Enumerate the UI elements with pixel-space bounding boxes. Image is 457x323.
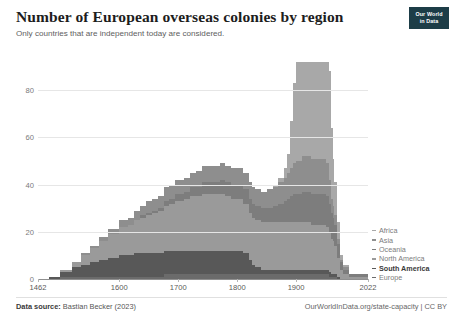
legend-connector-line xyxy=(372,268,376,269)
legend-item-label: North America xyxy=(379,254,425,263)
legend-item-label: Africa xyxy=(379,226,397,235)
y-axis: 020406080 xyxy=(14,62,34,279)
y-axis-label-60: 60 xyxy=(26,133,34,142)
x-axis-tick-1700 xyxy=(178,279,179,282)
gridline-y-0 xyxy=(38,279,368,280)
y-axis-label-20: 20 xyxy=(26,227,34,236)
logo-line-2: in Data xyxy=(420,18,439,25)
legend-item-label: Europe xyxy=(379,273,402,282)
legend-item-north-america[interactable]: North America xyxy=(372,254,454,263)
gridline-y-60 xyxy=(38,137,368,138)
legend-connector-line xyxy=(372,239,376,240)
legend-item-south-america[interactable]: South America xyxy=(372,264,454,273)
data-source-label: Data source: xyxy=(16,302,61,311)
legend-connector-line xyxy=(372,249,376,250)
credit-link[interactable]: OurWorldInData.org/state-capacity | CC B… xyxy=(305,302,447,311)
x-axis-label-1900: 1900 xyxy=(288,283,305,292)
x-axis-tick-1900 xyxy=(296,279,297,282)
gridline-y-80 xyxy=(38,90,368,91)
legend-item-asia[interactable]: Asia xyxy=(372,235,454,244)
y-axis-label-80: 80 xyxy=(26,86,34,95)
owid-logo[interactable]: Our World in Data xyxy=(409,7,449,29)
x-axis-tick-1800 xyxy=(237,279,238,282)
x-axis-tick-1600 xyxy=(119,279,120,282)
legend-connector-line xyxy=(372,277,376,278)
page-subtitle: Only countries that are independent toda… xyxy=(16,29,224,38)
gridline-y-40 xyxy=(38,185,368,186)
legend-item-oceania[interactable]: Oceania xyxy=(372,245,454,254)
legend-item-label: Oceania xyxy=(379,245,406,254)
page-title: Number of European overseas colonies by … xyxy=(16,8,344,26)
plot-area xyxy=(38,62,368,279)
legend-item-label: Asia xyxy=(379,236,393,245)
chart-legend: AfricaAsiaOceaniaNorth AmericaSouth Amer… xyxy=(372,226,454,282)
x-axis-label-2022: 2022 xyxy=(360,283,377,292)
legend-connector-line xyxy=(372,230,376,231)
x-axis-label-1462: 1462 xyxy=(30,283,47,292)
y-axis-label-40: 40 xyxy=(26,180,34,189)
footer-divider xyxy=(16,297,447,298)
legend-connector-line xyxy=(372,258,376,259)
data-source-value: Bastian Becker (2023) xyxy=(63,302,136,311)
legend-item-label: South America xyxy=(379,264,429,273)
x-axis-label-1700: 1700 xyxy=(170,283,187,292)
x-axis-tick-2022 xyxy=(368,279,369,282)
x-axis-label-1600: 1600 xyxy=(111,283,128,292)
legend-item-europe[interactable]: Europe xyxy=(372,273,454,282)
x-axis-tick-1462 xyxy=(38,279,39,282)
chart-page: Number of European overseas colonies by … xyxy=(0,0,457,323)
data-source: Data source: Bastian Becker (2023) xyxy=(16,302,136,311)
stacked-area-svg xyxy=(38,62,368,279)
legend-item-africa[interactable]: Africa xyxy=(372,226,454,235)
logo-line-1: Our World xyxy=(415,11,442,18)
gridline-y-20 xyxy=(38,232,368,233)
x-axis-label-1800: 1800 xyxy=(229,283,246,292)
